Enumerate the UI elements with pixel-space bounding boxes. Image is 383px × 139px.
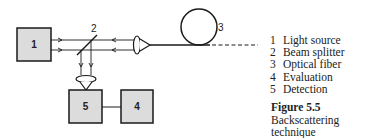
svg-text:2: 2 [91,23,97,34]
outgoing-beams [51,38,136,52]
figure-title: Backscattering technique [271,114,383,139]
figure-caption: Figure 5.5 Backscattering technique [271,101,383,138]
legend-item: 1 Light source [270,34,345,46]
detector-lens [76,76,96,91]
coupling-lens [134,36,151,54]
legend-item: 5 Detection [270,83,345,95]
svg-text:1: 1 [31,39,37,50]
svg-text:5: 5 [83,101,89,112]
legend-item: 3 Optical fiber [270,58,345,70]
evaluation-box: 4 [121,90,153,123]
fiber-label: 3 [218,22,224,33]
detection-box: 5 [69,90,102,123]
svg-text:4: 4 [134,101,140,112]
optical-fiber [150,9,258,45]
legend-item: 4 Evaluation [270,71,345,83]
figure-number: Figure 5.5 [271,101,383,114]
legend: 1 Light source 2 Beam splitter 3 Optical… [270,34,345,95]
legend-item: 2 Beam splitter [270,46,345,58]
light-source-box: 1 [17,28,51,61]
